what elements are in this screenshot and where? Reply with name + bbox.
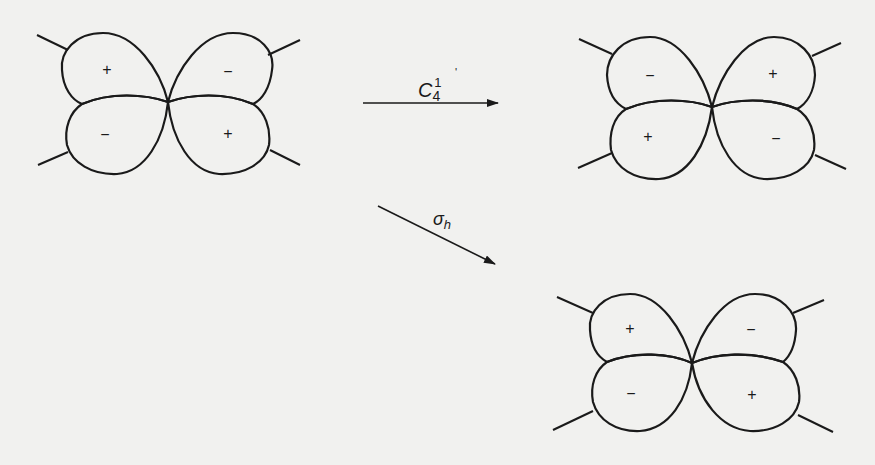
lobe-bottom-right	[712, 101, 814, 180]
lobe-bottom-left	[592, 355, 692, 431]
orbital-after-sigma-h	[553, 294, 833, 432]
lobe-top-left	[590, 294, 692, 363]
phase-sign: +	[643, 129, 652, 145]
phase-sign: +	[768, 66, 777, 82]
lobe-top-right	[712, 37, 815, 109]
sigma-symbol: σ	[433, 209, 444, 229]
lobe-bottom-right	[168, 96, 269, 175]
phase-sign: −	[626, 386, 635, 402]
phase-sign: +	[625, 321, 634, 337]
c4-subscript: 4	[432, 88, 440, 104]
lobe-bottom-left	[611, 101, 712, 180]
phase-sign: −	[100, 127, 109, 143]
phase-sign: −	[746, 322, 755, 338]
phase-sign: +	[223, 126, 232, 142]
axis-line	[812, 43, 841, 56]
phase-sign: +	[747, 387, 756, 403]
lobe-bottom-right	[692, 355, 799, 431]
lobe-top-left	[607, 37, 712, 109]
lobe-top-right	[692, 294, 796, 363]
sigma-h-label: σh	[433, 210, 451, 231]
c4-tick-mark: '	[455, 67, 457, 78]
axis-line	[37, 35, 68, 50]
phase-sign: −	[771, 131, 780, 147]
lobe-top-left	[62, 33, 168, 104]
axis-line	[557, 297, 593, 313]
axis-line	[579, 39, 612, 54]
orbital-diagram-canvas	[0, 0, 875, 465]
c4-label: C41	[418, 76, 441, 103]
phase-sign: +	[102, 62, 111, 78]
phase-sign: −	[223, 64, 232, 80]
axis-line	[270, 150, 300, 165]
orbital-original	[37, 33, 300, 174]
axis-line	[815, 155, 846, 169]
c4-superscript: 1	[434, 75, 441, 90]
axis-line	[798, 415, 833, 432]
phase-sign: −	[645, 68, 654, 84]
axis-line	[578, 153, 612, 168]
sigma-subscript: h	[444, 217, 451, 232]
c4-symbol: C	[418, 79, 432, 101]
axis-line	[553, 411, 593, 430]
axis-line	[38, 152, 68, 165]
axis-line	[268, 40, 300, 55]
orbital-after-c4	[578, 37, 846, 179]
lobe-top-right	[168, 33, 272, 104]
axis-line	[793, 300, 824, 313]
lobe-bottom-left	[66, 96, 168, 175]
